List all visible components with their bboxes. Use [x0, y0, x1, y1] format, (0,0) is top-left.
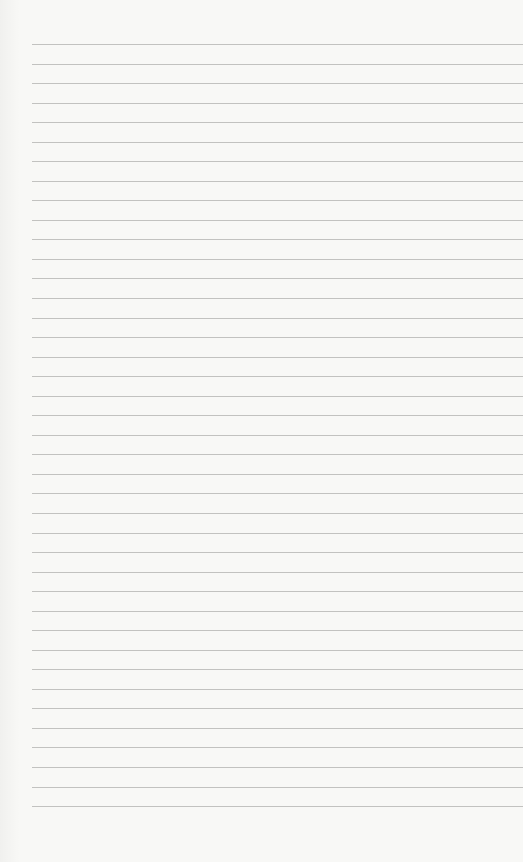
ruled-line	[32, 787, 523, 788]
ruled-line	[32, 396, 523, 397]
ruled-line	[32, 747, 523, 748]
ruled-line	[32, 435, 523, 436]
lined-paper-sheet	[0, 0, 523, 862]
ruled-line	[32, 337, 523, 338]
ruled-line	[32, 103, 523, 104]
ruled-line	[32, 552, 523, 553]
ruled-line	[32, 181, 523, 182]
ruled-line	[32, 298, 523, 299]
ruled-line	[32, 806, 523, 807]
ruled-line	[32, 318, 523, 319]
ruled-line	[32, 728, 523, 729]
ruled-line	[32, 513, 523, 514]
ruled-line	[32, 200, 523, 201]
ruled-line	[32, 533, 523, 534]
ruled-line	[32, 415, 523, 416]
ruled-line	[32, 259, 523, 260]
ruled-line	[32, 493, 523, 494]
ruled-line	[32, 220, 523, 221]
ruled-line	[32, 376, 523, 377]
ruled-line	[32, 44, 523, 45]
ruled-line	[32, 708, 523, 709]
ruled-line	[32, 142, 523, 143]
ruled-line	[32, 630, 523, 631]
ruled-line	[32, 611, 523, 612]
ruled-line	[32, 650, 523, 651]
ruled-line	[32, 278, 523, 279]
ruled-line	[32, 239, 523, 240]
ruled-line	[32, 591, 523, 592]
ruled-line	[32, 122, 523, 123]
ruled-line	[32, 161, 523, 162]
ruled-line	[32, 669, 523, 670]
ruled-line	[32, 83, 523, 84]
ruled-line	[32, 454, 523, 455]
ruled-line	[32, 64, 523, 65]
ruled-line	[32, 474, 523, 475]
ruled-line	[32, 767, 523, 768]
ruled-line	[32, 357, 523, 358]
ruled-line	[32, 689, 523, 690]
ruled-line	[32, 572, 523, 573]
